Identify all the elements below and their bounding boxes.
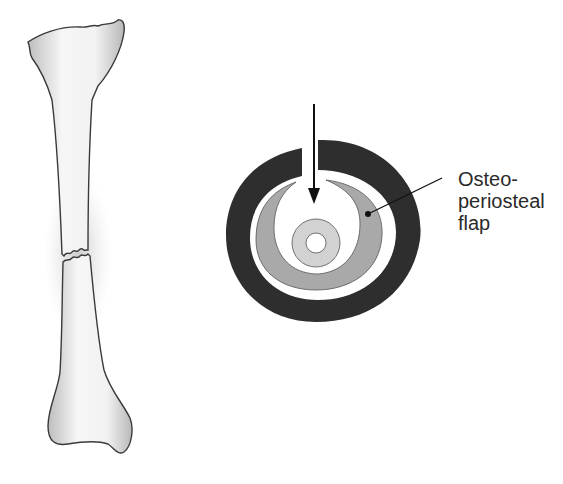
label-line-3: flap xyxy=(458,212,545,234)
figure-canvas xyxy=(0,0,563,484)
label-line-1: Osteo- xyxy=(458,168,545,190)
flap-label: Osteo- periosteal flap xyxy=(458,168,545,234)
label-line-2: periosteal xyxy=(458,190,545,212)
upper-bone-fragment xyxy=(28,20,124,256)
cross-section xyxy=(226,104,442,322)
fractured-bone xyxy=(28,20,132,453)
medullary-canal xyxy=(306,233,326,253)
leader-dot xyxy=(365,211,371,217)
down-arrow-icon xyxy=(308,188,320,204)
